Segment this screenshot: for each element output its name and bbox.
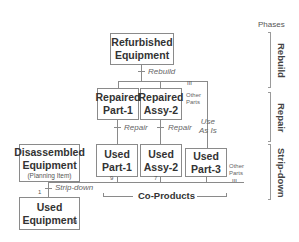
connector: [157, 127, 164, 128]
node-used-assy-2: Used Assy-2: [140, 144, 182, 177]
phase-strip-down: Strip-down: [276, 148, 287, 198]
qty-1: 1: [38, 189, 41, 195]
node-refurbished-equipment: Refurbished Equipment: [110, 33, 174, 65]
node-label: Used: [37, 201, 63, 214]
node-label: Part-1: [103, 104, 133, 117]
node-label: Disassembled: [14, 146, 85, 159]
connector: [206, 177, 207, 182]
qty-9: 9: [110, 175, 113, 181]
node-label: Used: [193, 150, 219, 163]
phases-title: Phases: [258, 20, 285, 29]
node-label: Equipment: [115, 49, 169, 62]
node-label: Part-1: [102, 161, 132, 174]
connector: [138, 71, 145, 72]
connector: [118, 81, 119, 88]
node-repaired-assy-2: Repaired Assy-2: [140, 88, 182, 120]
node-label: Equipment: [22, 159, 76, 172]
label: Other: [229, 163, 244, 169]
node-repaired-part-1: Repaired Part-1: [97, 88, 139, 120]
node-label: Repaired: [96, 91, 141, 104]
connector: [207, 81, 208, 148]
node-label: Refurbished: [111, 36, 172, 49]
connector: [117, 120, 118, 144]
co-products-label: Co-Products: [138, 190, 195, 201]
edge-label-strip-down: Strip-down: [55, 183, 93, 192]
edge-label-repair-1: Repair: [124, 123, 148, 132]
phase-repair: Repair: [276, 103, 287, 133]
node-label: Part-3: [191, 163, 221, 176]
node-used-part-1: Used Part-1: [96, 144, 138, 177]
connector: [160, 120, 161, 144]
co-products-left-line: [103, 196, 133, 197]
edge-label-repair-2: Repair: [168, 123, 192, 132]
phase-rebuild: Rebuild: [276, 43, 287, 78]
node-disassembled-equipment: Disassembled Equipment (Planning Item): [19, 144, 80, 182]
node-label: Assy-2: [144, 161, 178, 174]
edge-label-rebuild: Rebuild: [148, 67, 175, 76]
qty-7: 7: [154, 175, 157, 181]
connector: [118, 81, 208, 82]
connector: [160, 81, 161, 88]
edge-label-use-as-is: Use As Is: [199, 117, 217, 135]
other-parts-bottom: Other Parts: [229, 163, 244, 177]
label: Parts: [229, 170, 243, 176]
node-label: Used: [104, 148, 130, 161]
connector: [160, 177, 161, 182]
connector: [48, 182, 49, 197]
connector: [117, 177, 118, 182]
connector: [141, 65, 142, 82]
corner-code: 6a: [71, 215, 77, 228]
phase-bracket-strip-down: [268, 144, 271, 200]
tick-marks: III: [187, 80, 192, 86]
node-label: Equipment: [22, 214, 76, 227]
node-used-equipment: Used Equipment 6a: [19, 197, 80, 230]
co-products-left-end: [103, 193, 104, 197]
label: Use: [201, 117, 215, 126]
node-label: Used: [148, 148, 174, 161]
phase-bracket-rebuild: [268, 32, 271, 88]
node-label: Assy-2: [144, 104, 178, 117]
tick-marks: III: [232, 178, 237, 184]
connector: [114, 127, 121, 128]
connector: [45, 188, 52, 189]
planning-item-note: (Planning Item): [27, 172, 71, 180]
node-used-part-3: Used Part-3: [185, 148, 227, 177]
other-parts-top: Other Parts: [186, 92, 201, 106]
co-products-right-end: [226, 193, 227, 197]
label: Parts: [186, 99, 200, 105]
co-products-right-line: [197, 196, 227, 197]
phase-bracket-repair: [268, 92, 271, 142]
label: Other: [186, 92, 201, 98]
label: As Is: [199, 126, 217, 135]
node-label: Repaired: [139, 91, 184, 104]
